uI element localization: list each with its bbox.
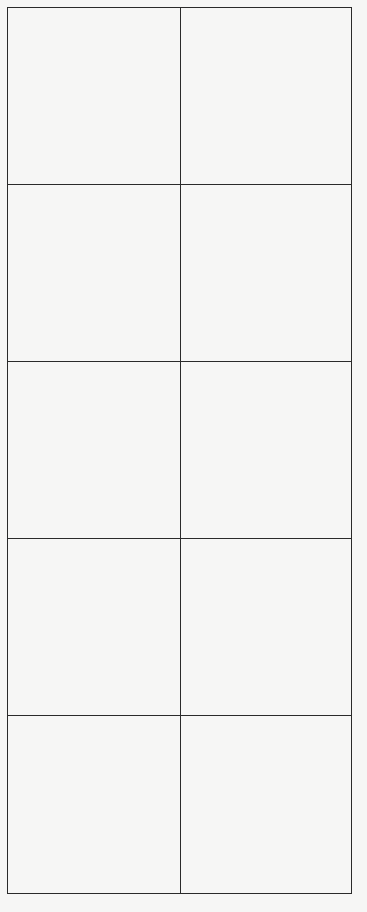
grid-cell-r3-c2 [181, 362, 351, 539]
empty-grid [7, 7, 352, 894]
grid-cell-r5-c2 [181, 716, 351, 893]
grid-cell-r3-c1 [8, 362, 181, 539]
grid-cell-r2-c1 [8, 185, 181, 362]
grid-cell-r1-c2 [181, 8, 351, 185]
grid-cell-r4-c2 [181, 539, 351, 716]
grid-cell-r2-c2 [181, 185, 351, 362]
grid-cell-r1-c1 [8, 8, 181, 185]
grid-cell-r4-c1 [8, 539, 181, 716]
grid-cell-r5-c1 [8, 716, 181, 893]
